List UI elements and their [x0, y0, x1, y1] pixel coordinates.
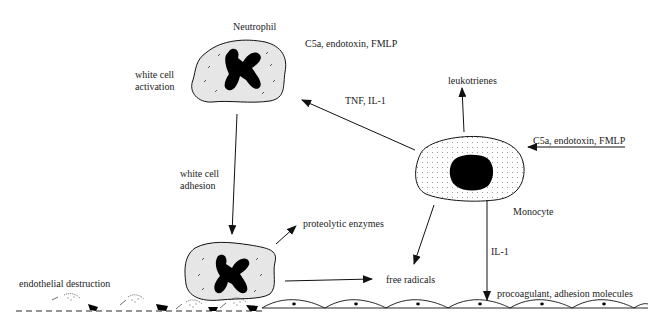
neutrophil-bottom	[185, 242, 276, 300]
endothelial-destruction-label: endothelial destruction	[19, 278, 110, 290]
arrow-adhesion	[232, 114, 237, 234]
arrow-leukotrienes	[462, 88, 464, 132]
arrow-free-radicals-monocyte	[414, 205, 434, 264]
endothelium-intact	[262, 300, 648, 308]
white-cell-adhesion-label-line1: white cell	[180, 168, 219, 180]
neutrophil-label: Neutrophil	[233, 21, 276, 33]
white-cell-adhesion-label-line2: adhesion	[180, 180, 216, 192]
monocyte-cell	[416, 136, 524, 201]
arrow-free-radicals-neutrophil	[285, 279, 372, 281]
proteolytic-enzymes-label: proteolytic enzymes	[303, 218, 384, 230]
neutrophil-top	[192, 40, 286, 102]
free-radicals-label: free radicals	[386, 274, 435, 286]
il1-label: IL-1	[491, 246, 509, 258]
white-cell-activation-label-line2: activation	[135, 81, 174, 93]
inflammation-diagram: Neutrophil C5a, endotoxin, FMLP white ce…	[0, 0, 662, 324]
white-cell-activation-label-line1: white cell	[135, 69, 174, 81]
monocyte-label: Monocyte	[513, 206, 554, 218]
monocyte-stimuli-label: C5a, endotoxin, FMLP	[533, 135, 625, 147]
procoagulant-label: procoagulant, adhesion molecules	[497, 288, 633, 300]
leukotrienes-label: leukotrienes	[448, 75, 497, 87]
tnf-il1-label: TNF, IL-1	[345, 95, 386, 107]
arrow-proteolytic	[276, 226, 296, 244]
neutrophil-stimuli-label: C5a, endotoxin, FMLP	[305, 38, 397, 50]
arrow-tnf	[302, 100, 415, 150]
